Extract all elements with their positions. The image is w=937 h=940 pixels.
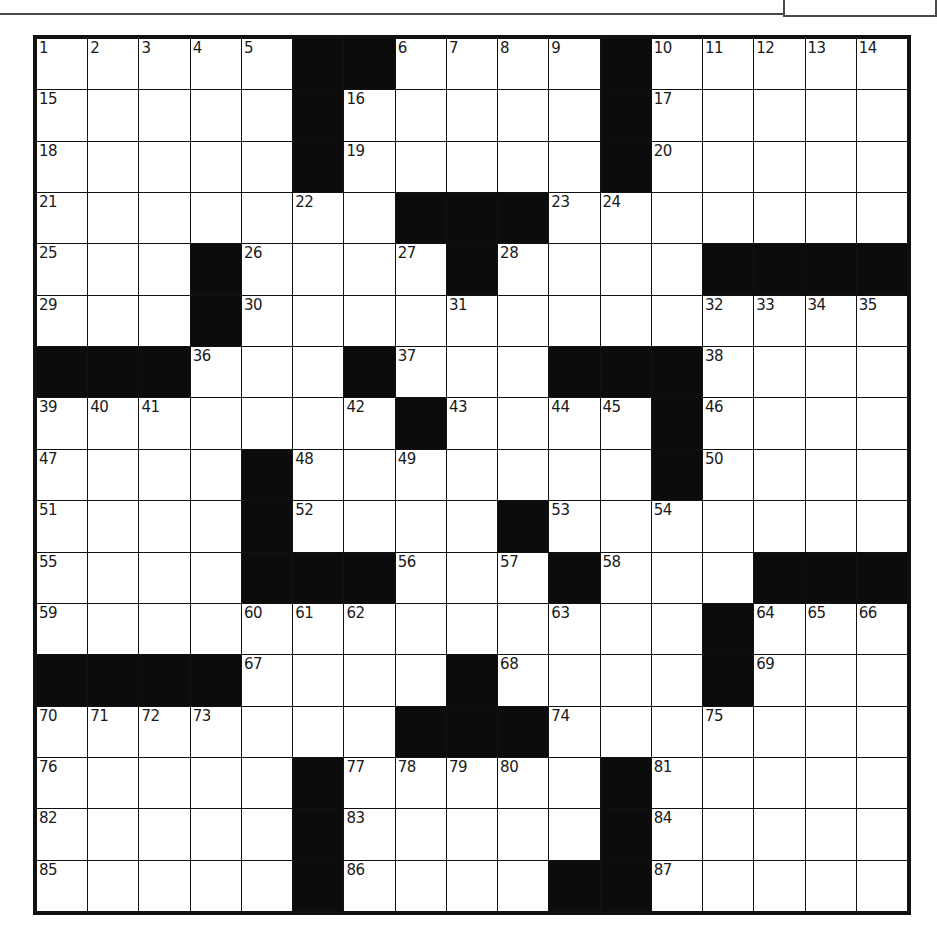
grid-cell[interactable]: 42 bbox=[344, 398, 394, 448]
grid-cell[interactable] bbox=[139, 296, 189, 346]
grid-cell[interactable] bbox=[806, 758, 856, 808]
grid-cell[interactable]: 14 bbox=[857, 39, 907, 89]
grid-cell[interactable]: 25 bbox=[37, 244, 87, 294]
grid-cell[interactable] bbox=[242, 347, 292, 397]
grid-cell[interactable] bbox=[191, 90, 241, 140]
grid-cell[interactable] bbox=[88, 244, 138, 294]
grid-cell[interactable] bbox=[806, 707, 856, 757]
grid-cell[interactable]: 57 bbox=[498, 553, 548, 603]
grid-cell[interactable] bbox=[139, 193, 189, 243]
grid-cell[interactable] bbox=[447, 142, 497, 192]
grid-cell[interactable] bbox=[857, 861, 907, 911]
grid-cell[interactable] bbox=[191, 604, 241, 654]
grid-cell[interactable] bbox=[396, 604, 446, 654]
grid-cell[interactable] bbox=[293, 244, 343, 294]
grid-cell[interactable] bbox=[549, 450, 599, 500]
grid-cell[interactable] bbox=[806, 501, 856, 551]
grid-cell[interactable] bbox=[857, 347, 907, 397]
grid-cell[interactable]: 13 bbox=[806, 39, 856, 89]
grid-cell[interactable]: 68 bbox=[498, 655, 548, 705]
grid-cell[interactable]: 81 bbox=[652, 758, 702, 808]
grid-cell[interactable]: 17 bbox=[652, 90, 702, 140]
grid-cell[interactable] bbox=[191, 861, 241, 911]
grid-cell[interactable]: 15 bbox=[37, 90, 87, 140]
grid-cell[interactable]: 85 bbox=[37, 861, 87, 911]
grid-cell[interactable] bbox=[396, 501, 446, 551]
grid-cell[interactable] bbox=[703, 501, 753, 551]
grid-cell[interactable] bbox=[88, 193, 138, 243]
grid-cell[interactable] bbox=[191, 809, 241, 859]
grid-cell[interactable] bbox=[754, 758, 804, 808]
grid-cell[interactable] bbox=[754, 861, 804, 911]
grid-cell[interactable] bbox=[344, 501, 394, 551]
grid-cell[interactable]: 54 bbox=[652, 501, 702, 551]
grid-cell[interactable] bbox=[88, 90, 138, 140]
grid-cell[interactable] bbox=[703, 90, 753, 140]
grid-cell[interactable]: 34 bbox=[806, 296, 856, 346]
grid-cell[interactable]: 44 bbox=[549, 398, 599, 448]
grid-cell[interactable]: 69 bbox=[754, 655, 804, 705]
grid-cell[interactable] bbox=[857, 142, 907, 192]
grid-cell[interactable] bbox=[396, 861, 446, 911]
grid-cell[interactable] bbox=[806, 398, 856, 448]
grid-cell[interactable] bbox=[242, 707, 292, 757]
grid-cell[interactable] bbox=[447, 604, 497, 654]
grid-cell[interactable]: 53 bbox=[549, 501, 599, 551]
grid-cell[interactable]: 83 bbox=[344, 809, 394, 859]
grid-cell[interactable] bbox=[242, 193, 292, 243]
grid-cell[interactable] bbox=[806, 90, 856, 140]
grid-cell[interactable]: 51 bbox=[37, 501, 87, 551]
grid-cell[interactable]: 59 bbox=[37, 604, 87, 654]
grid-cell[interactable] bbox=[498, 142, 548, 192]
grid-cell[interactable] bbox=[191, 758, 241, 808]
grid-cell[interactable] bbox=[88, 861, 138, 911]
grid-cell[interactable]: 46 bbox=[703, 398, 753, 448]
grid-cell[interactable]: 18 bbox=[37, 142, 87, 192]
grid-cell[interactable] bbox=[447, 450, 497, 500]
grid-cell[interactable] bbox=[396, 655, 446, 705]
grid-cell[interactable]: 64 bbox=[754, 604, 804, 654]
grid-cell[interactable] bbox=[447, 553, 497, 603]
grid-cell[interactable]: 50 bbox=[703, 450, 753, 500]
grid-cell[interactable] bbox=[498, 398, 548, 448]
grid-cell[interactable] bbox=[139, 553, 189, 603]
grid-cell[interactable]: 49 bbox=[396, 450, 446, 500]
grid-cell[interactable] bbox=[88, 501, 138, 551]
grid-cell[interactable]: 77 bbox=[344, 758, 394, 808]
grid-cell[interactable]: 82 bbox=[37, 809, 87, 859]
grid-cell[interactable]: 6 bbox=[396, 39, 446, 89]
grid-cell[interactable]: 23 bbox=[549, 193, 599, 243]
grid-cell[interactable] bbox=[652, 193, 702, 243]
grid-cell[interactable]: 31 bbox=[447, 296, 497, 346]
grid-cell[interactable] bbox=[703, 142, 753, 192]
grid-cell[interactable] bbox=[139, 501, 189, 551]
grid-cell[interactable]: 52 bbox=[293, 501, 343, 551]
grid-cell[interactable] bbox=[754, 450, 804, 500]
grid-cell[interactable] bbox=[703, 809, 753, 859]
grid-cell[interactable] bbox=[447, 90, 497, 140]
grid-cell[interactable]: 10 bbox=[652, 39, 702, 89]
grid-cell[interactable] bbox=[88, 450, 138, 500]
grid-cell[interactable]: 4 bbox=[191, 39, 241, 89]
grid-cell[interactable] bbox=[447, 347, 497, 397]
grid-cell[interactable] bbox=[498, 861, 548, 911]
grid-cell[interactable] bbox=[754, 398, 804, 448]
grid-cell[interactable]: 9 bbox=[549, 39, 599, 89]
grid-cell[interactable] bbox=[498, 347, 548, 397]
grid-cell[interactable]: 56 bbox=[396, 553, 446, 603]
grid-cell[interactable]: 80 bbox=[498, 758, 548, 808]
grid-cell[interactable] bbox=[191, 501, 241, 551]
grid-cell[interactable] bbox=[88, 142, 138, 192]
grid-cell[interactable]: 29 bbox=[37, 296, 87, 346]
grid-cell[interactable] bbox=[139, 90, 189, 140]
grid-cell[interactable] bbox=[191, 450, 241, 500]
grid-cell[interactable]: 8 bbox=[498, 39, 548, 89]
grid-cell[interactable]: 47 bbox=[37, 450, 87, 500]
grid-cell[interactable] bbox=[344, 296, 394, 346]
grid-cell[interactable]: 20 bbox=[652, 142, 702, 192]
grid-cell[interactable]: 30 bbox=[242, 296, 292, 346]
grid-cell[interactable] bbox=[88, 296, 138, 346]
grid-cell[interactable] bbox=[857, 758, 907, 808]
grid-cell[interactable] bbox=[498, 809, 548, 859]
grid-cell[interactable] bbox=[703, 758, 753, 808]
